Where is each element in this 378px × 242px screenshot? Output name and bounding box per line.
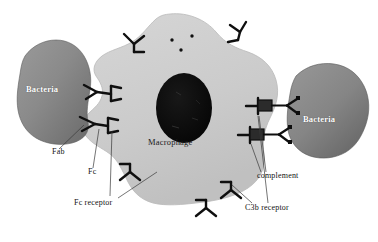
c3b-receptor-label: C3b receptor (245, 203, 289, 212)
bacteria-right-body (287, 64, 369, 159)
bacteria-right-label: Bacteria (303, 114, 335, 124)
complement-lower (264, 128, 289, 142)
phagocytosis-diagram: Bacteria Bacteria Macrophage Fab Fc Fc r… (0, 0, 378, 242)
bacteria-left-label: Bacteria (26, 84, 58, 94)
fc-label: Fc (88, 167, 96, 176)
macrophage-label: Macrophage (148, 137, 192, 147)
receptor-top-right (228, 22, 246, 42)
fc-receptor-label: Fc receptor (74, 198, 112, 207)
fab-label: Fab (52, 147, 65, 156)
macrophage (82, 14, 277, 205)
complement-label: complement (257, 171, 299, 180)
bacteria-right (287, 64, 369, 159)
nucleus (156, 73, 212, 143)
